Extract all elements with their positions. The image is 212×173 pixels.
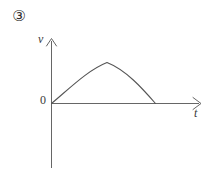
velocity-curve xyxy=(52,63,156,104)
figure-root: ③ v t 0 xyxy=(0,0,212,173)
velocity-time-plot xyxy=(0,0,212,173)
v-axis-label: v xyxy=(38,33,43,45)
origin-label: 0 xyxy=(40,94,46,106)
t-axis-label: t xyxy=(194,107,197,119)
